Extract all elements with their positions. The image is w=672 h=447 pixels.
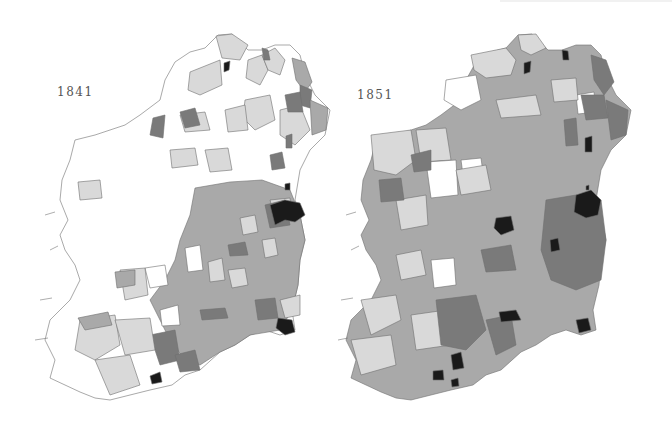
map-panel-1841: 1841 [0,0,336,447]
ireland-map-1851 [336,0,672,447]
ireland-map-1841 [0,0,336,447]
map-panel-1851: 1851 [336,0,672,447]
